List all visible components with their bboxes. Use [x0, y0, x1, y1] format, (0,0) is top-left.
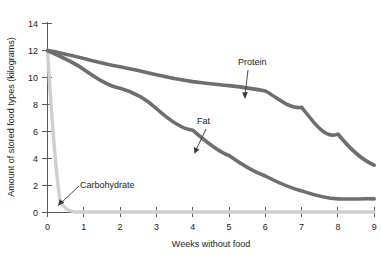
fat-curve [48, 51, 375, 200]
fat-label: Fat [197, 116, 211, 126]
carbohydrate-label: Carbohydrate [80, 180, 135, 190]
y-tick-label-8: 8 [33, 100, 38, 110]
x-tick-label-7: 7 [299, 222, 304, 232]
carbohydrate-annotation: Carbohydrate [58, 180, 135, 206]
x-tick-label-2: 2 [118, 222, 123, 232]
chart-figure: 0 2 4 6 8 10 12 14 0 1 2 3 4 5 [0, 0, 381, 259]
x-tick-label-3: 3 [154, 222, 159, 232]
x-tick-label-9: 9 [372, 222, 377, 232]
x-tick-label-5: 5 [226, 222, 231, 232]
y-tick-label-14: 14 [28, 19, 38, 29]
x-tick-label-0: 0 [45, 222, 50, 232]
x-tick-label-6: 6 [263, 222, 268, 232]
y-tick-label-6: 6 [33, 127, 38, 137]
protein-annotation: Protein [238, 57, 267, 99]
protein-leader-line [245, 70, 248, 95]
y-tick-label-2: 2 [33, 181, 38, 191]
y-tick-label-10: 10 [28, 73, 38, 83]
line-chart-svg: 0 2 4 6 8 10 12 14 0 1 2 3 4 5 [0, 0, 381, 259]
protein-curve [48, 51, 375, 166]
y-tick-label-4: 4 [33, 154, 38, 164]
y-axis-title: Amount of stored food types (kilograms) [6, 37, 16, 197]
y-tick-label-12: 12 [28, 46, 38, 56]
y-tick-label-0: 0 [33, 208, 38, 218]
x-tick-label-4: 4 [190, 222, 195, 232]
protein-label: Protein [238, 57, 267, 67]
protein-arrow-icon [242, 92, 248, 99]
x-tick-label-1: 1 [81, 222, 86, 232]
x-tick-label-8: 8 [335, 222, 340, 232]
x-axis-title: Weeks without food [172, 239, 250, 249]
carbohydrate-leader-line [61, 186, 79, 203]
